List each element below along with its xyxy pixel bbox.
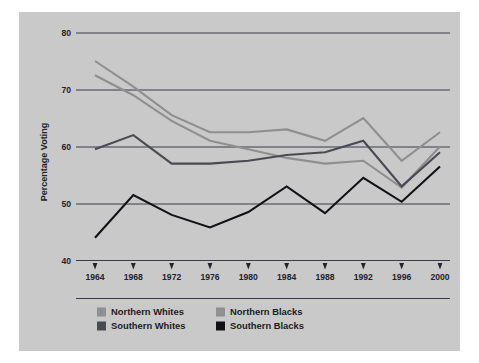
legend-swatch	[216, 322, 225, 331]
x-tick-marker	[284, 263, 289, 270]
x-tick-label: 1968	[124, 272, 143, 282]
x-tick-labels: 1964196819721976198019841988199219962000	[85, 272, 449, 282]
y-tick-label: 80	[61, 28, 71, 38]
x-tick-marker	[169, 263, 174, 270]
x-tick-label: 1972	[162, 272, 181, 282]
y-tick-label: 40	[61, 256, 71, 266]
legend-label: Northern Whites	[111, 306, 184, 317]
y-tick-label: 70	[61, 85, 71, 95]
legend: Northern WhitesNorthern BlacksSouthern W…	[97, 306, 304, 331]
y-tick-label: 50	[61, 199, 71, 209]
legend-swatch	[97, 308, 106, 317]
line-chart: 4050607080 19641968197219761980198419881…	[19, 12, 460, 351]
legend-label: Southern Whites	[111, 320, 185, 331]
legend-swatch	[216, 308, 225, 317]
x-tick-label: 1976	[200, 272, 219, 282]
legend-label: Northern Blacks	[230, 306, 302, 317]
x-tick-marker	[131, 263, 136, 270]
x-tick-label: 2000	[430, 272, 449, 282]
x-tick-label: 1992	[354, 272, 373, 282]
legend-label: Southern Blacks	[230, 320, 304, 331]
x-tick-marker	[399, 263, 404, 270]
x-tick-label: 1980	[239, 272, 258, 282]
x-tick-marker	[246, 263, 251, 270]
x-tick-label: 1988	[315, 272, 334, 282]
x-tick-marker	[93, 263, 98, 270]
chart-figure: 4050607080 19641968197219761980198419881…	[19, 12, 460, 351]
y-axis-label: Percentage Voting	[39, 123, 49, 201]
x-tick-label: 1964	[85, 272, 104, 282]
y-tick-label: 60	[61, 142, 71, 152]
x-tick-label: 1996	[392, 272, 411, 282]
series-lines	[95, 61, 440, 238]
x-tick-marks	[93, 263, 443, 270]
y-tick-labels: 4050607080	[61, 28, 71, 266]
x-tick-marker	[323, 263, 328, 270]
x-tick-marker	[438, 263, 443, 270]
x-tick-label: 1984	[277, 272, 296, 282]
legend-swatch	[97, 322, 106, 331]
x-tick-marker	[208, 263, 213, 270]
x-tick-marker	[361, 263, 366, 270]
